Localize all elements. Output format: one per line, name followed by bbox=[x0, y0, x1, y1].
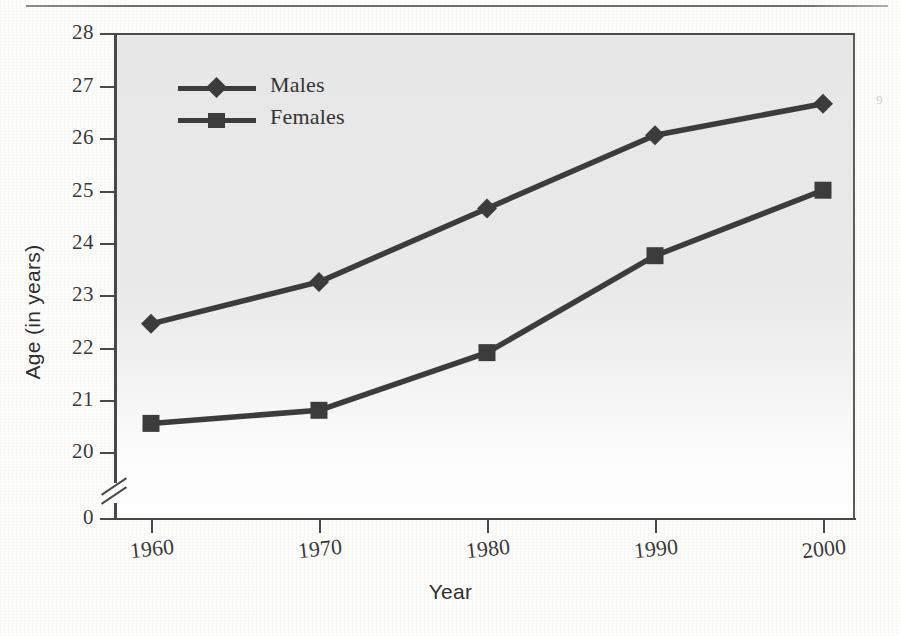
data-point-females bbox=[815, 182, 832, 199]
line-chart-figure: 28 27 26 25 24 23 22 21 20 0 1960 1970 1… bbox=[0, 0, 901, 636]
legend-item-females: Females bbox=[178, 104, 388, 136]
data-point-males bbox=[141, 314, 161, 334]
data-point-males bbox=[309, 272, 329, 292]
data-point-males bbox=[645, 125, 665, 145]
data-point-males bbox=[813, 94, 833, 114]
data-series-layer bbox=[0, 0, 901, 636]
data-point-males bbox=[477, 199, 497, 219]
legend-item-males: Males bbox=[178, 72, 388, 104]
diamond-marker-icon bbox=[178, 80, 256, 96]
chart-legend: Males Females bbox=[178, 72, 388, 138]
markers-females bbox=[143, 182, 832, 432]
page-corner-mark: 9 bbox=[876, 92, 883, 108]
square-marker-icon bbox=[178, 112, 256, 128]
data-point-females bbox=[311, 402, 328, 419]
legend-label-females: Females bbox=[270, 104, 345, 130]
line-series-females bbox=[151, 190, 823, 423]
data-point-females bbox=[479, 344, 496, 361]
legend-label-males: Males bbox=[270, 72, 325, 98]
data-point-females bbox=[647, 247, 664, 264]
data-point-females bbox=[143, 415, 160, 432]
